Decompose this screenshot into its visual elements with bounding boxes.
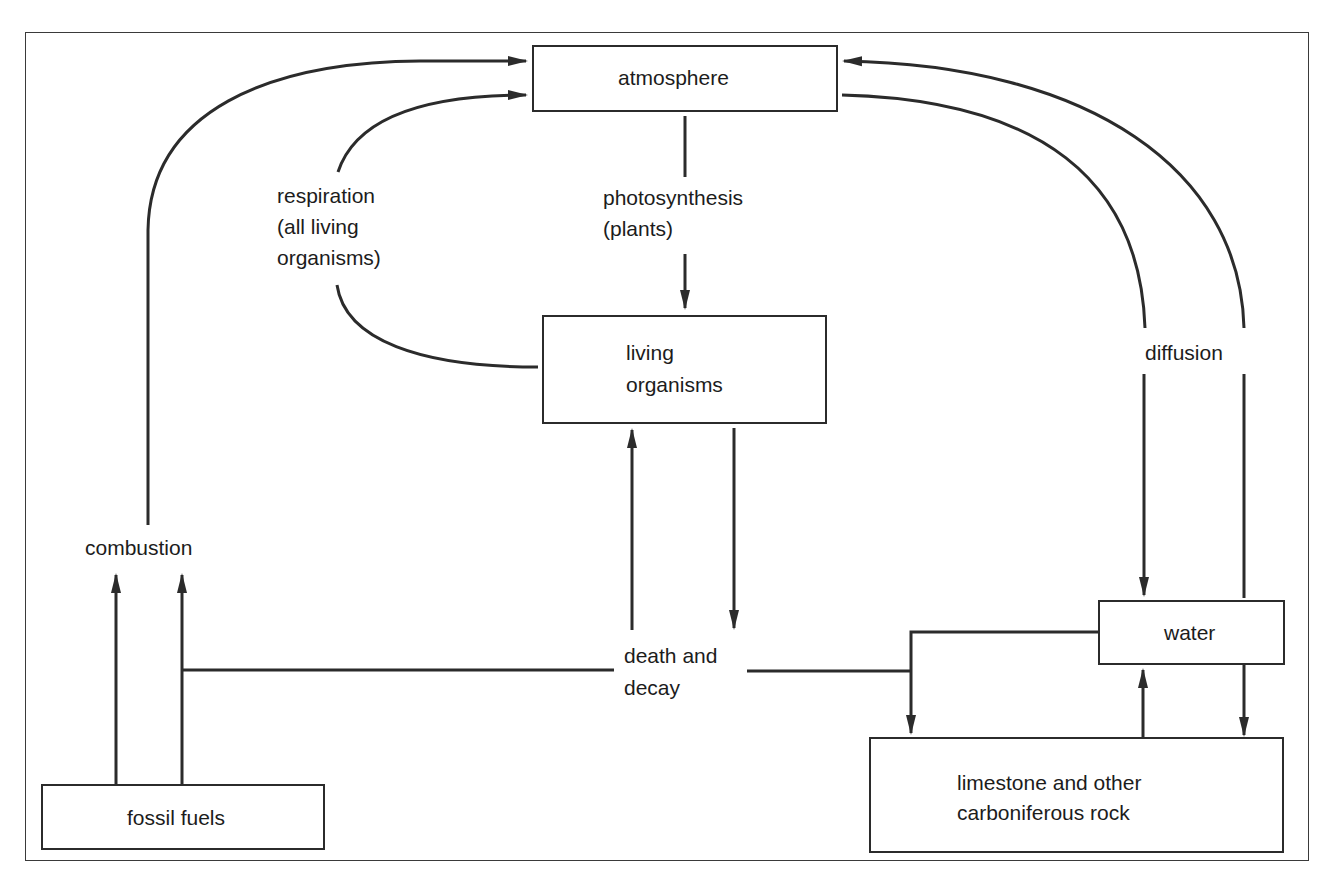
edge-respiration-upper bbox=[338, 95, 526, 172]
edge-water-to-rock-branch bbox=[911, 632, 1098, 733]
node-living-organisms-line1: living bbox=[626, 339, 674, 367]
node-living-organisms: living organisms bbox=[542, 315, 827, 424]
node-fossil-fuels: fossil fuels bbox=[41, 784, 325, 850]
node-living-organisms-line2: organisms bbox=[626, 371, 723, 399]
node-atmosphere-label: atmosphere bbox=[618, 64, 729, 92]
node-atmosphere: atmosphere bbox=[532, 45, 838, 112]
node-water-label: water bbox=[1164, 619, 1215, 647]
edge-diffusion-outer-curve bbox=[844, 61, 1244, 328]
edge-diffusion-inner-curve bbox=[842, 95, 1145, 328]
label-respiration-line3: organisms) bbox=[277, 243, 381, 272]
node-limestone-rock-line2: carboniferous rock bbox=[957, 799, 1130, 827]
label-photosynthesis-line1: photosynthesis bbox=[603, 183, 743, 212]
node-limestone-rock-line1: limestone and other bbox=[957, 769, 1141, 797]
edge-combustion-to-atmosphere bbox=[148, 61, 526, 525]
node-limestone-rock: limestone and other carboniferous rock bbox=[869, 737, 1284, 853]
node-water: water bbox=[1098, 600, 1285, 665]
label-death-and-decay-line2: decay bbox=[624, 673, 680, 702]
node-fossil-fuels-label: fossil fuels bbox=[127, 804, 225, 832]
label-combustion: combustion bbox=[85, 533, 192, 562]
label-respiration-line2: (all living bbox=[277, 212, 359, 241]
edge-respiration-to-atmosphere bbox=[337, 285, 538, 367]
label-photosynthesis-line2: (plants) bbox=[603, 214, 673, 243]
label-diffusion: diffusion bbox=[1145, 338, 1223, 367]
label-respiration-line1: respiration bbox=[277, 181, 375, 210]
label-death-and-decay-line1: death and bbox=[624, 641, 717, 670]
